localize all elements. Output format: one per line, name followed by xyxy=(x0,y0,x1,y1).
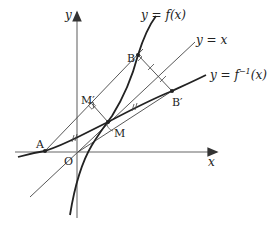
point-m xyxy=(106,120,110,124)
label-f: y = f(x) xyxy=(140,8,186,22)
point-b-prime xyxy=(170,89,174,93)
y-axis-label: y xyxy=(64,8,72,22)
label-identity: y = x xyxy=(195,33,227,47)
curve-f xyxy=(70,16,156,215)
equal-length-ticks xyxy=(72,103,137,142)
segment-bb-prime xyxy=(138,55,172,91)
label-f-inverse: y = f−1(x) xyxy=(209,67,267,82)
origin-label: O xyxy=(64,155,73,168)
label-a: A xyxy=(35,138,45,151)
point-b xyxy=(136,53,140,57)
x-axis-label: x xyxy=(208,155,215,169)
label-m: M xyxy=(114,127,125,140)
inverse-function-diagram: y x O A B B′ M M′ y = f(x) y = x y = f−1… xyxy=(0,0,280,227)
label-b-prime: B′ xyxy=(172,96,183,109)
label-b: B xyxy=(127,52,135,65)
label-m-prime: M′ xyxy=(81,94,95,107)
